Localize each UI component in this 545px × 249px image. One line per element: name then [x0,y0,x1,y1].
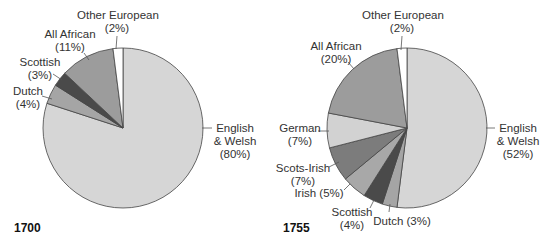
label-1755-dutch: Dutch (3%) [372,215,432,228]
label-1755-scots-irish: Scots-Irish (7%) [270,162,336,188]
label-value: (4%) [8,98,48,111]
label-text: English [493,122,543,135]
label-value: (2%) [362,22,442,35]
label-value: (11%) [40,41,100,54]
label-1700-english-welsh: English & Welsh (80%) [210,122,260,161]
label-text: All African [306,40,366,53]
label-1700-scottish: Scottish (3%) [15,56,65,82]
label-text: Dutch [8,85,48,98]
label-value: (52%) [493,148,543,161]
label-text: Other European [77,9,157,22]
label-text-2: & Welsh [210,135,260,148]
label-text: Scots-Irish [270,162,336,175]
label-value: (4%) [327,219,377,232]
label-text: Scottish [15,56,65,69]
label-text: Dutch (3%) [372,215,432,228]
label-text: German [275,122,325,135]
label-1755-scottish: Scottish (4%) [327,206,377,232]
label-text: Irish (5%) [294,187,344,200]
label-text-2: & Welsh [493,135,543,148]
label-value: (20%) [306,53,366,66]
label-1755-english-welsh: English & Welsh (52%) [493,122,543,161]
year-label-1700: 1700 [14,221,41,235]
label-value: (3%) [15,69,65,82]
pie-chart-1755 [327,48,487,208]
label-1700-all-african: All African (11%) [40,28,100,54]
pie-chart-1700 [43,48,203,208]
label-1700-dutch: Dutch (4%) [8,85,48,111]
pie-slice-english-welsh [397,48,487,208]
label-text: Other European [362,9,442,22]
label-text: All African [40,28,100,41]
label-value: (7%) [275,135,325,148]
label-1755-german: German (7%) [275,122,325,148]
label-text: English [210,122,260,135]
label-1755-all-african: All African (20%) [306,40,366,66]
label-1755-irish: Irish (5%) [294,187,344,200]
label-1755-other-european: Other European (2%) [362,9,442,35]
label-value: (80%) [210,148,260,161]
year-label-1755: 1755 [283,221,310,235]
label-text: Scottish [327,206,377,219]
